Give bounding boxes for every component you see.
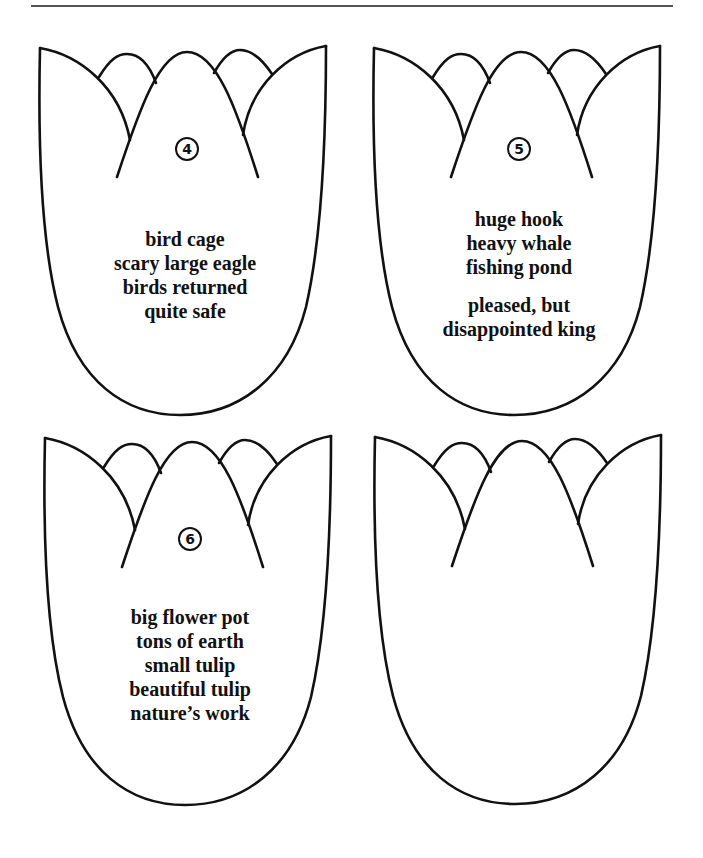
top-rule-divider xyxy=(31,5,673,7)
word-line: bird cage xyxy=(40,227,330,251)
tulip-card-4: 4 bird cage scary large eagle birds retu… xyxy=(40,47,340,427)
step-number-badge: 4 xyxy=(175,137,199,161)
step-number-badge: 5 xyxy=(507,137,531,161)
word-line: heavy whale xyxy=(374,231,664,255)
word-line: pleased, but xyxy=(374,293,664,317)
step-number-badge: 6 xyxy=(178,527,202,551)
tulip-card-6: 6 big flower pot tons of earth small tul… xyxy=(45,437,345,817)
word-line: beautiful tulip xyxy=(45,677,335,701)
word-line: scary large eagle xyxy=(40,251,330,275)
word-line: quite safe xyxy=(40,299,330,323)
tulip-text-block: big flower pot tons of earth small tulip… xyxy=(45,605,335,725)
tulip-text-block: bird cage scary large eagle birds return… xyxy=(40,227,330,323)
word-line: huge hook xyxy=(374,207,664,231)
word-line: big flower pot xyxy=(45,605,335,629)
tulip-text-block: huge hook heavy whale fishing pond pleas… xyxy=(374,207,664,341)
word-line: disappointed king xyxy=(374,317,664,341)
word-line: nature’s work xyxy=(45,701,335,725)
tulip-card-5: 5 huge hook heavy whale fishing pond ple… xyxy=(374,47,674,427)
tulip-outline-icon xyxy=(375,436,665,808)
word-line: tons of earth xyxy=(45,629,335,653)
word-line: small tulip xyxy=(45,653,335,677)
word-line: birds returned xyxy=(40,275,330,299)
tulip-card-blank xyxy=(375,436,675,816)
word-line: fishing pond xyxy=(374,255,664,279)
